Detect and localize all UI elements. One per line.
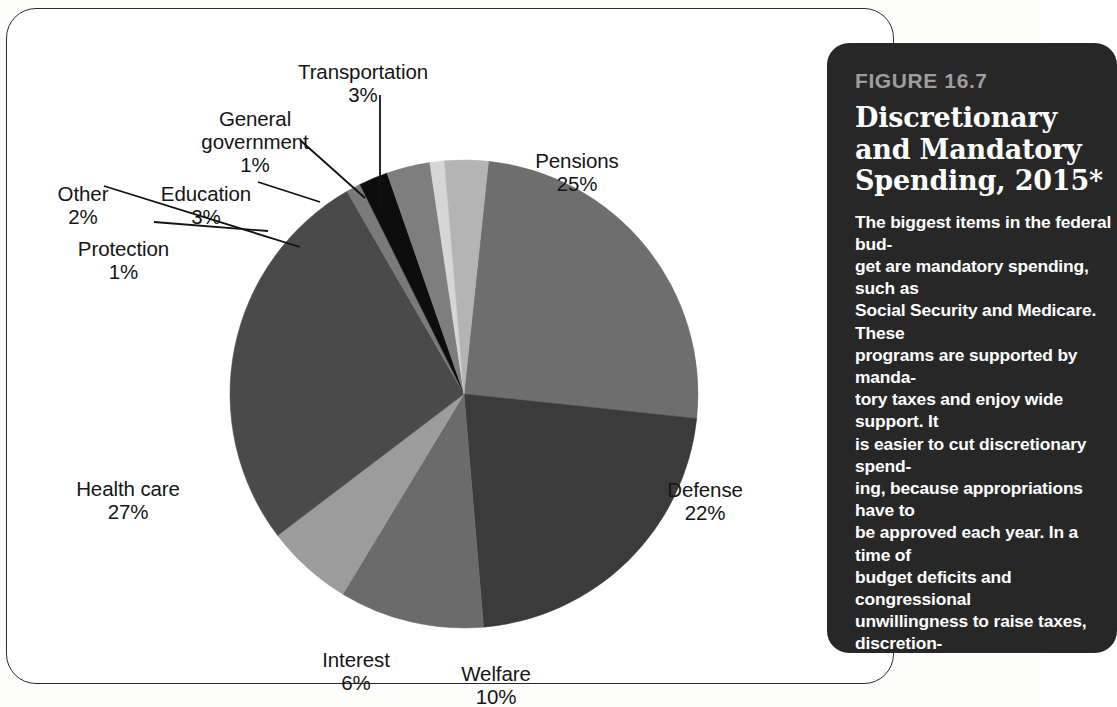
- pie-label-pensions-value: 25%: [497, 173, 657, 196]
- pie-label-defense-value: 22%: [630, 502, 780, 525]
- pie-chart-svg: [229, 159, 699, 629]
- pie-label-defense-name: Defense: [667, 478, 743, 501]
- pie-label-interest-name: Interest: [322, 648, 390, 671]
- pie-label-pensions-name: Pensions: [535, 149, 619, 172]
- figure-body-text: The biggest items in the federal bud- ge…: [855, 211, 1117, 653]
- pie-label-protection-name: Protection: [78, 237, 169, 260]
- pie-label-transportation-name: Transportation: [298, 60, 428, 83]
- pie-label-protection-value: 1%: [51, 261, 196, 284]
- pie-chart: [229, 159, 699, 629]
- pie-label-welfare: Welfare 10%: [426, 640, 566, 707]
- pie-label-other-name: Other: [58, 182, 109, 205]
- pie-label-interest: Interest 6%: [286, 626, 426, 707]
- pie-label-welfare-name: Welfare: [461, 662, 531, 685]
- pie-label-protection: Protection 1%: [51, 215, 196, 307]
- pie-label-health-care-value: 27%: [38, 501, 218, 524]
- pie-label-defense: Defense 22%: [630, 456, 780, 548]
- pie-label-health-care-name: Health care: [76, 477, 180, 500]
- pie-label-interest-value: 6%: [286, 672, 426, 695]
- pie-label-pensions: Pensions 25%: [497, 127, 657, 219]
- figure-number: FIGURE 16.7: [855, 69, 1117, 93]
- pie-label-health-care: Health care 27%: [38, 455, 218, 547]
- pie-slice-group: [230, 160, 698, 628]
- figure-title: Discretionary and Mandatory Spending, 20…: [855, 102, 1117, 197]
- pie-label-education-name: Education: [161, 182, 251, 205]
- figure-caption-box: FIGURE 16.7 Discretionary and Mandatory …: [827, 43, 1117, 653]
- pie-label-welfare-value: 10%: [426, 686, 566, 707]
- pie-label-general-government-name: General government: [201, 107, 308, 153]
